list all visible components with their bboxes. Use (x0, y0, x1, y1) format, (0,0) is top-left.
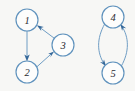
graph-figure: 1 2 3 4 5 (0, 0, 135, 91)
node-4[interactable]: 4 (102, 6, 124, 28)
edge-2-to-3-arrowhead (48, 51, 54, 57)
edge-1-to-2 (24, 31, 29, 61)
node-1-label: 1 (24, 15, 29, 26)
node-3[interactable]: 3 (52, 34, 74, 56)
edge-2-to-3 (37, 51, 54, 67)
edge-4-to-5 (99, 24, 106, 66)
edge-5-to-4-curve (121, 26, 127, 66)
graph-canvas: 1 2 3 4 5 (0, 0, 135, 91)
edge-4-to-5-curve (99, 24, 105, 64)
edge-3-to-1 (37, 25, 55, 38)
node-2-label: 2 (24, 67, 30, 78)
node-5-label: 5 (110, 68, 115, 79)
edge-3-to-1-line (39, 27, 54, 38)
node-1[interactable]: 1 (16, 9, 38, 31)
edge-2-to-3-line (37, 54, 52, 67)
edge-5-to-4 (120, 24, 127, 66)
node-5[interactable]: 5 (102, 62, 124, 84)
node-3-label: 3 (59, 40, 65, 51)
node-2[interactable]: 2 (16, 61, 38, 83)
node-4-label: 4 (110, 12, 116, 23)
